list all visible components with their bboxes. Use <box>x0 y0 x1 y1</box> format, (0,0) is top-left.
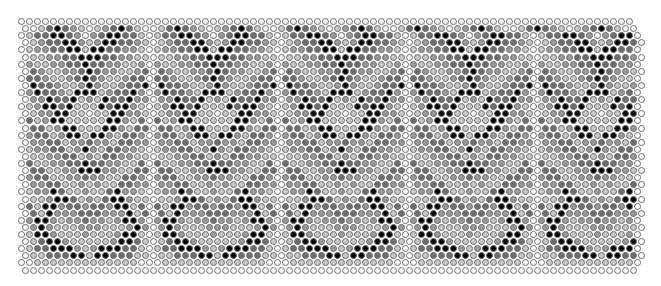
bead <box>522 103 529 110</box>
bead <box>594 61 601 68</box>
bead <box>626 89 633 96</box>
bead <box>286 110 293 117</box>
bead <box>330 132 337 139</box>
bead <box>422 167 429 174</box>
bead <box>106 174 113 181</box>
bead <box>310 82 317 89</box>
bead <box>30 39 37 46</box>
bead <box>74 89 81 96</box>
bead <box>614 25 621 32</box>
bead <box>150 139 157 146</box>
bead <box>102 238 109 245</box>
bead <box>554 61 561 68</box>
bead <box>342 224 349 231</box>
bead <box>438 54 445 61</box>
bead <box>142 125 149 132</box>
bead <box>210 231 217 238</box>
bead <box>270 267 277 274</box>
bead <box>222 252 229 259</box>
bead <box>306 160 313 167</box>
bead <box>198 238 205 245</box>
bead <box>102 39 109 46</box>
bead <box>86 39 93 46</box>
bead <box>230 238 237 245</box>
bead <box>318 252 325 259</box>
bead <box>178 188 185 195</box>
bead <box>298 103 305 110</box>
bead <box>334 68 341 75</box>
bead <box>82 103 89 110</box>
bead <box>490 32 497 39</box>
bead <box>178 18 185 25</box>
bead <box>494 139 501 146</box>
bead <box>290 174 297 181</box>
bead <box>506 146 513 153</box>
bead <box>102 267 109 274</box>
bead <box>286 82 293 89</box>
bead <box>342 125 349 132</box>
bead <box>378 245 385 252</box>
bead <box>526 110 533 117</box>
bead <box>454 68 461 75</box>
bead <box>282 146 289 153</box>
bead <box>214 196 221 203</box>
bead <box>634 231 641 238</box>
bead <box>438 82 445 89</box>
bead <box>342 252 349 259</box>
bead <box>266 18 273 25</box>
bead <box>486 110 493 117</box>
bead <box>54 167 61 174</box>
bead <box>342 82 349 89</box>
bead <box>362 46 369 53</box>
bead <box>226 117 233 124</box>
bead <box>210 18 217 25</box>
bead <box>102 196 109 203</box>
bead <box>74 245 81 252</box>
bead <box>522 160 529 167</box>
bead <box>342 110 349 117</box>
bead <box>542 196 549 203</box>
bead <box>414 110 421 117</box>
bead <box>158 139 165 146</box>
bead <box>570 103 577 110</box>
bead <box>422 267 429 274</box>
bead <box>366 181 373 188</box>
bead <box>62 196 69 203</box>
bead <box>506 32 513 39</box>
bead <box>582 167 589 174</box>
bead <box>502 238 509 245</box>
bead <box>638 39 645 46</box>
bead <box>418 18 425 25</box>
bead <box>470 196 477 203</box>
bead <box>594 188 601 195</box>
bead <box>614 125 621 132</box>
bead <box>262 238 269 245</box>
bead <box>622 252 629 259</box>
bead <box>398 167 405 174</box>
bead <box>438 167 445 174</box>
bead <box>486 25 493 32</box>
bead <box>330 18 337 25</box>
bead <box>486 167 493 174</box>
bead <box>134 167 141 174</box>
bead <box>42 259 49 266</box>
bead <box>386 117 393 124</box>
bead <box>594 46 601 53</box>
bead <box>42 245 49 252</box>
bead <box>290 217 297 224</box>
bead <box>354 46 361 53</box>
bead <box>338 203 345 210</box>
bead <box>202 75 209 82</box>
bead <box>546 46 553 53</box>
bead <box>598 68 605 75</box>
bead <box>426 160 433 167</box>
bead <box>146 103 153 110</box>
bead <box>46 110 53 117</box>
bead <box>122 245 129 252</box>
bead <box>446 125 453 132</box>
bead <box>554 231 561 238</box>
bead <box>366 153 373 160</box>
bead <box>178 174 185 181</box>
bead <box>30 153 37 160</box>
bead <box>394 245 401 252</box>
